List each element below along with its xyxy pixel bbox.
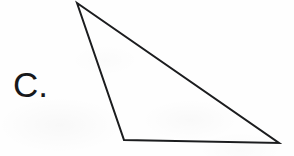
triangle-shape (77, 3, 279, 143)
figure-page: C. (0, 0, 294, 156)
triangle-figure (0, 0, 294, 156)
